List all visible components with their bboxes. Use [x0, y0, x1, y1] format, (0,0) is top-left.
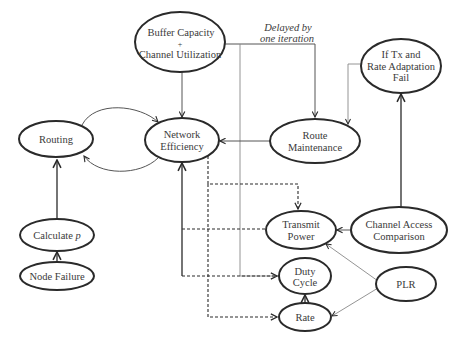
node-txpower-line2: Power — [288, 231, 315, 242]
node-txpower-line1: Transmit — [282, 219, 320, 230]
node-buffer-line1: Buffer Capacity — [147, 27, 215, 38]
edge-neteff-to-rate — [208, 184, 277, 317]
edge-iftx-to-routemaint — [348, 64, 361, 124]
edge-neteff-to-routing — [84, 156, 158, 171]
node-chanaccess-line2: Comparison — [373, 231, 425, 242]
node-channel-access-comparison: Channel Access Comparison — [351, 207, 447, 253]
edge-plr-to-rate — [332, 288, 378, 316]
node-network-efficiency: Network Efficiency — [145, 118, 219, 162]
node-iftx-line1: If Tx and — [382, 49, 422, 60]
node-rate-label: Rate — [295, 312, 315, 323]
node-routing-label: Routing — [39, 134, 74, 145]
node-routemaint-line2: Maintenance — [288, 142, 343, 153]
node-route-maintenance: Route Maintenance — [270, 119, 360, 163]
edge-routing-to-neteff — [82, 108, 158, 125]
node-duty-line2: Cycle — [293, 277, 318, 288]
node-node-failure: Node Failure — [20, 262, 94, 290]
node-buffer-line2: + — [178, 40, 183, 49]
node-calcp-label: Calculate p — [33, 230, 81, 241]
node-neteff-line2: Efficiency — [160, 141, 204, 152]
node-buffer-capacity: Buffer Capacity + Channel Utilization — [135, 12, 225, 72]
node-chanaccess-line1: Channel Access — [366, 219, 433, 230]
node-routemaint-line1: Route — [302, 130, 327, 141]
node-iftx-line3: Fail — [393, 72, 409, 83]
node-iftx-line2: Rate Adaptation — [367, 61, 436, 72]
flow-diagram: Buffer Capacity + Channel Utilization De… — [0, 0, 468, 345]
annotation-delayed-line2: one iteration — [260, 33, 314, 44]
annotation-delayed: Delayed by one iteration — [260, 22, 314, 44]
node-rate: Rate — [279, 303, 331, 331]
node-routing: Routing — [19, 121, 93, 157]
edge-neteff-to-txpower — [208, 156, 298, 209]
node-buffer-line3: Channel Utilization — [139, 49, 222, 60]
edge-plr-to-txpower — [326, 244, 378, 281]
node-duty-line1: Duty — [295, 266, 317, 277]
edge-buffer-to-routemaint — [225, 44, 315, 117]
annotation-delayed-line1: Delayed by — [263, 22, 312, 33]
node-plr-label: PLR — [396, 279, 415, 290]
node-nodefail-label: Node Failure — [29, 271, 84, 282]
node-duty-cycle: Duty Cycle — [279, 258, 331, 294]
node-plr: PLR — [376, 267, 436, 301]
node-neteff-line1: Network — [164, 129, 201, 140]
node-transmit-power: Transmit Power — [266, 211, 336, 249]
node-calculate-p: Calculate p — [20, 219, 94, 251]
node-iftx-rate-adaptation-fail: If Tx and Rate Adaptation Fail — [361, 39, 441, 93]
